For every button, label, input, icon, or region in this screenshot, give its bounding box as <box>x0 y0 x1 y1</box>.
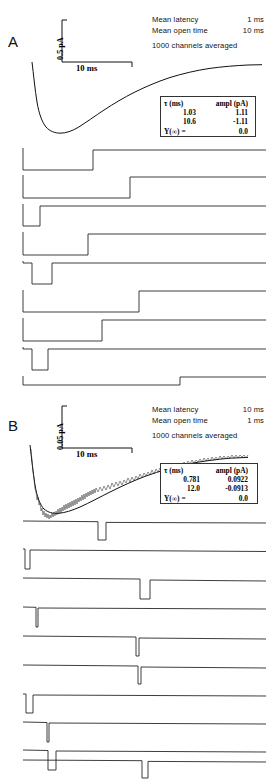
record-trace <box>23 148 266 170</box>
panel-a-fit-tau-1: 1.03 <box>164 108 196 117</box>
record-trace <box>23 665 266 684</box>
record-trace <box>23 232 266 255</box>
panel-a-fit-asymptote: Y(∞) = 0.0 <box>164 127 252 136</box>
panel-a-fit-ampl-2: -1.11 <box>208 117 248 126</box>
record-trace <box>23 694 266 713</box>
record-trace <box>23 347 266 370</box>
record-trace <box>23 290 266 312</box>
panel-a-latency-label: Mean latency <box>152 14 198 25</box>
panel-b-last-record <box>0 758 274 781</box>
panel-b-fit-row-1: 0.781 0.0922 <box>164 475 254 484</box>
panel-a-fit-table: τ (ms) ampl (pA) 1.03 1.11 10.6 -1.11 Y(… <box>160 96 256 137</box>
record-trace <box>23 261 266 284</box>
panel-a-fit-header-ampl: ampl (pA) <box>208 99 248 108</box>
panel-b-fit-ampl-2: -0.0913 <box>208 484 248 493</box>
panel-b-averaged-note: 1000 channels averaged <box>152 430 274 441</box>
panel-a: A Mean latency 1 ms Mean open time 10 ms… <box>0 0 274 390</box>
panel-a-averaged-note: 1000 channels averaged <box>152 40 274 51</box>
record-trace <box>23 318 266 341</box>
record-trace <box>23 636 266 656</box>
panel-b-fit-tau-2: 12.0 <box>164 484 200 493</box>
record-trace <box>23 607 266 627</box>
record-trace <box>23 760 266 778</box>
record-trace <box>23 204 266 226</box>
panel-b-fit-ampl-1: 0.0922 <box>208 475 248 484</box>
panel-a-letter: A <box>8 33 18 50</box>
panel-b-stats: Mean latency 10 ms Mean open time 1 ms 1… <box>152 404 274 441</box>
panel-a-opentime-row: Mean open time 10 ms <box>152 25 274 36</box>
panel-a-fit-ampl-1: 1.11 <box>208 108 248 117</box>
panel-b-latency-row: Mean latency 10 ms <box>152 404 274 415</box>
record-trace <box>23 722 266 742</box>
panel-a-records <box>0 148 274 388</box>
panel-b-fit-header-ampl: ampl (pA) <box>208 466 248 475</box>
record-trace <box>23 376 266 385</box>
panel-b-letter: B <box>8 417 18 434</box>
panel-a-asymptote-value: 0.0 <box>208 127 248 136</box>
panel-a-fit-row-1: 1.03 1.11 <box>164 108 252 117</box>
panel-b-opentime-label: Mean open time <box>152 415 208 426</box>
record-trace <box>23 521 266 540</box>
panel-a-asymptote-label: Y(∞) = <box>164 127 210 136</box>
panel-a-opentime-value: 10 ms <box>234 25 264 36</box>
panel-b: B Mean latency 10 ms Mean open time 1 ms… <box>0 390 274 781</box>
panel-a-scalebar-v-label: 0.5 pA <box>56 37 65 60</box>
record-trace <box>23 175 266 198</box>
record-trace <box>23 578 266 599</box>
panel-a-fit-row-2: 10.6 -1.11 <box>164 117 252 126</box>
panel-b-opentime-row: Mean open time 1 ms <box>152 415 274 426</box>
panel-b-fit-table: τ (ms) ampl (pA) 0.781 0.0922 12.0 -0.09… <box>160 463 258 504</box>
panel-a-latency-value: 1 ms <box>234 14 264 25</box>
panel-b-opentime-value: 1 ms <box>234 415 264 426</box>
panel-b-fit-row-2: 12.0 -0.0913 <box>164 484 254 493</box>
panel-b-fit-header-tau: τ (ms) <box>164 466 210 475</box>
panel-b-fit-asymptote: Y(∞) = 0.0 <box>164 494 254 503</box>
panel-a-fit-tau-2: 10.6 <box>164 117 196 126</box>
panel-b-fit-tau-1: 0.781 <box>164 475 200 484</box>
record-trace <box>23 549 266 569</box>
panel-a-latency-row: Mean latency 1 ms <box>152 14 274 25</box>
panel-a-fit-table-header: τ (ms) ampl (pA) <box>164 99 252 108</box>
panel-b-fit-table-header: τ (ms) ampl (pA) <box>164 466 254 475</box>
panel-a-fit-header-tau: τ (ms) <box>164 99 210 108</box>
panel-b-records <box>0 518 274 776</box>
panel-b-asymptote-label: Y(∞) = <box>164 494 210 503</box>
panel-a-opentime-label: Mean open time <box>152 25 208 36</box>
panel-b-latency-label: Mean latency <box>152 404 198 415</box>
panel-b-asymptote-value: 0.0 <box>208 494 248 503</box>
panel-a-stats: Mean latency 1 ms Mean open time 10 ms 1… <box>152 14 274 51</box>
panel-b-latency-value: 10 ms <box>234 404 264 415</box>
